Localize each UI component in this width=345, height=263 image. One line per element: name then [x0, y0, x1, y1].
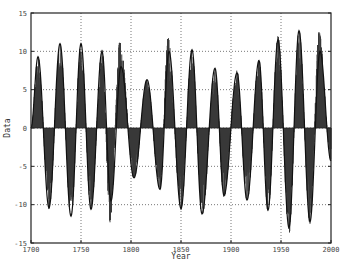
y-tick-label: 10 — [19, 48, 27, 56]
y-axis-label: Data — [3, 118, 12, 137]
y-tick-label: -10 — [14, 201, 27, 209]
x-axis-label: Year — [171, 252, 190, 261]
y-tick-label: 15 — [19, 10, 27, 18]
x-tick-label: 1950 — [273, 246, 290, 254]
x-tick-label: 1750 — [73, 246, 90, 254]
x-tick-label: 1800 — [123, 246, 140, 254]
y-tick-label: -5 — [19, 163, 27, 171]
y-tick-label: 5 — [23, 86, 27, 94]
chart: 1700175018001850190019502000 -15-10-5051… — [0, 0, 345, 263]
y-tick-label: -15 — [14, 240, 27, 248]
y-tick-label: 0 — [23, 125, 27, 133]
x-tick-label: 1900 — [223, 246, 240, 254]
x-tick-label: 2000 — [323, 246, 340, 254]
